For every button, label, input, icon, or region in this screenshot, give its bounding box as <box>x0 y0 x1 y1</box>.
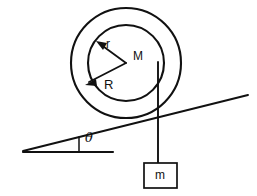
label-outer-radius: R <box>104 78 113 91</box>
label-hanging-mass: m <box>155 169 165 181</box>
label-inner-radius: r <box>106 38 110 50</box>
physics-diagram: r M R θ m <box>0 0 257 196</box>
label-incline-angle: θ <box>85 131 93 144</box>
incline-surface-line <box>23 95 248 151</box>
diagram-canvas <box>0 0 257 196</box>
label-pulley-mass: M <box>133 50 143 62</box>
